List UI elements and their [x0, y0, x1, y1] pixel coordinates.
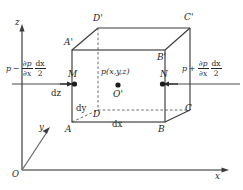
edge-Bprime-Cprime — [165, 28, 190, 50]
face-point-label-N: N — [160, 70, 168, 79]
right-pressure-partial-num: ∂p — [198, 60, 209, 69]
right-pressure-partial-den: ∂x — [198, 69, 208, 77]
left-pressure-dx-den: 2 — [37, 69, 44, 77]
right-face-pressure-expression: p + ∂p ∂x dx 2 — [182, 60, 223, 78]
edge-Aprime-Dprime — [72, 28, 98, 50]
left-pressure-base: p — [6, 65, 11, 73]
center-point-label: O' — [113, 90, 123, 99]
point-O-prime-dot — [115, 82, 120, 87]
vertex-label-C: C — [185, 104, 192, 113]
x-axis-label: x — [215, 172, 220, 181]
cube-hidden-edges — [72, 28, 190, 122]
left-pressure-dx-fraction: dx 2 — [35, 60, 46, 78]
vertex-label-A-prime: A' — [64, 38, 73, 47]
left-pressure-partial-fraction: ∂p ∂x — [22, 60, 33, 78]
right-pressure-dx-fraction: dx 2 — [211, 60, 222, 78]
y-axis-line — [22, 132, 47, 170]
right-pressure-partial-fraction: ∂p ∂x — [198, 60, 209, 78]
dimension-label-dy: dy — [76, 104, 86, 113]
vertex-label-D: D — [93, 110, 100, 119]
right-pressure-dx-den: 2 — [213, 69, 220, 77]
center-pressure-label: p(x,y,z) — [101, 68, 130, 76]
vertex-label-B-prime: B' — [157, 53, 166, 62]
x-axis-arrowhead — [222, 167, 230, 172]
left-pressure-partial-den: ∂x — [22, 69, 32, 77]
point-N-dot — [160, 81, 165, 86]
z-axis-label: z — [15, 18, 19, 27]
pressure-element-figure: z x y O D' C' A' B' D C A B dz dy dx p(x… — [0, 0, 243, 190]
right-pressure-operator: + — [189, 65, 196, 73]
left-pressure-operator: − — [13, 65, 20, 73]
left-face-pressure-expression: p − ∂p ∂x dx 2 — [6, 60, 47, 78]
vertex-label-D-prime: D' — [93, 14, 103, 23]
vertex-label-C-prime: C' — [184, 13, 193, 22]
dimension-label-dz: dz — [51, 89, 61, 98]
z-axis-arrowhead — [19, 24, 24, 32]
origin-label: O — [12, 170, 19, 179]
vertex-label-A: A — [65, 125, 72, 134]
left-pressure-partial-num: ∂p — [22, 60, 33, 69]
face-point-label-M: M — [68, 70, 77, 79]
cube-visible-edges — [72, 28, 190, 122]
dimension-label-dx: dx — [112, 120, 122, 129]
left-pressure-dx-num: dx — [35, 60, 46, 69]
vertex-label-B: B — [158, 125, 165, 134]
right-pressure-dx-num: dx — [211, 60, 222, 69]
y-axis-label: y — [39, 123, 44, 132]
points-group — [72, 81, 165, 87]
point-M-dot — [72, 81, 77, 86]
axes-group — [19, 24, 229, 173]
right-pressure-base: p — [182, 65, 187, 73]
